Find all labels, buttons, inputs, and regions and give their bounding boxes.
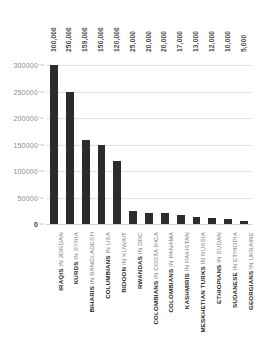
category-location-name: IN PANAMA	[167, 232, 174, 267]
x-axis-category-label: BIHARIS IN BANGLADESH	[88, 232, 95, 313]
y-axis-tick-mark	[39, 144, 44, 145]
category-group-name: IRAQIS	[57, 267, 64, 291]
bar	[82, 140, 90, 224]
bar	[177, 215, 185, 224]
bar-value-label: 13,000	[192, 31, 199, 52]
bar	[129, 211, 137, 224]
bar	[113, 161, 121, 225]
x-axis-category-label: RWANDAS IN DRC	[136, 232, 143, 289]
x-axis-category-label: SUDANESE IN ETHIOPIA	[231, 232, 238, 308]
category-group-name: BIDOON	[120, 265, 127, 293]
bar	[240, 221, 248, 224]
bar-value-label: 25,000	[129, 31, 136, 52]
bar-series	[46, 52, 252, 224]
category-group-name: GEORGIANS	[247, 269, 254, 310]
category-group-name: COLOMBIANS	[152, 279, 159, 325]
category-group-name: KASHMIRIS	[183, 271, 190, 309]
bar-value-label: 10,000	[224, 31, 231, 52]
bar	[145, 213, 153, 224]
axis-baseline	[46, 224, 252, 225]
y-axis-tick-label: 100000	[13, 168, 38, 175]
bar-value-label: 20,000	[160, 31, 167, 52]
y-axis-tick-label: 250000	[13, 88, 38, 95]
x-axis-category-label: KURDS IN SYRIA	[72, 232, 79, 284]
bar-value-label: 300,000	[50, 27, 57, 52]
x-axis-category-label: COLOMBIANS IN COSTA RICA	[152, 232, 159, 325]
bar	[66, 92, 74, 224]
bar	[224, 219, 232, 224]
bar	[193, 217, 201, 224]
category-group-name: RWANDAS	[136, 254, 143, 289]
bar-value-label: 12,000	[208, 31, 215, 52]
category-label-group: IRAQIS IN JORDANKURDS IN SYRIABIHARIS IN…	[46, 232, 252, 359]
y-axis-tick-label: 150000	[13, 141, 38, 148]
x-axis-category-label: MESKHETIAN TURKS IN RUSSIA	[199, 232, 206, 333]
y-axis-tick-label: 200000	[13, 115, 38, 122]
bar-value-label: 120,000	[113, 27, 120, 52]
x-axis-category-label: ETHIOPIANS IN SUDAN	[215, 232, 222, 304]
category-location-name: IN USA	[104, 232, 111, 254]
category-location-name: IN SUDAN	[215, 232, 222, 263]
x-axis-category-label: BIDOON IN KUWAIT	[120, 232, 127, 293]
category-group-name: COLOMBIANS	[167, 267, 174, 313]
y-axis-tick-mark	[39, 91, 44, 92]
category-group-name: ETHIOPIANS	[215, 263, 222, 304]
bar-value-label: 250,000	[65, 27, 72, 52]
category-location-name: IN RUSSIA	[199, 232, 206, 264]
category-group-name: BIHARIS	[88, 284, 95, 312]
y-axis-tick-mark	[39, 171, 44, 172]
category-location-name: IN SYRIA	[72, 232, 79, 260]
x-axis-category-label: IRAQIS IN JORDAN	[57, 232, 64, 291]
y-axis: 050000100000150000200000250000300000	[0, 52, 44, 224]
category-location-name: IN BANGLADESH	[88, 232, 95, 284]
category-location-name: IN DRC	[136, 232, 143, 254]
y-axis-tick-mark	[39, 197, 44, 198]
category-location-name: IN COSTA RICA	[152, 232, 159, 279]
y-axis-tick-label: 0	[34, 221, 38, 228]
bar-value-label: 150,000	[97, 27, 104, 52]
category-location-name: IN UKRAINE	[247, 232, 254, 269]
x-axis-category-label: GEORGIANS IN UKRAINE	[247, 232, 254, 310]
x-axis-category-label: COLUMBIANS IN USA	[104, 232, 111, 299]
x-axis-category-label: COLOMBIANS IN PANAMA	[167, 232, 174, 313]
category-group-name: COLUMBIANS	[104, 254, 111, 299]
y-axis-tick-mark	[39, 224, 44, 225]
y-axis-tick-mark	[39, 118, 44, 119]
category-group-name: MESKHETIAN TURKS	[199, 264, 206, 332]
category-group-name: KURDS	[72, 260, 79, 285]
bar	[98, 145, 106, 224]
bar	[50, 65, 58, 224]
value-label-group: 300,000250,000159,000150,000120,00025,00…	[46, 8, 252, 52]
category-location-name: IN PAKISTAN	[183, 232, 190, 271]
bar-value-label: 5,000	[240, 35, 247, 52]
category-location-name: IN ETHIOPIA	[231, 232, 238, 270]
bar-value-label: 20,000	[145, 31, 152, 52]
chart-title: STATELESS AND DISPLACED POPULATIONS	[38, 0, 238, 2]
bar-value-label: 159,000	[81, 27, 88, 52]
category-location-name: IN KUWAIT	[120, 232, 127, 265]
bar	[161, 213, 169, 224]
y-axis-tick-label: 300000	[13, 62, 38, 69]
x-axis-category-label: KASHMIRIS IN PAKISTAN	[183, 232, 190, 309]
bar-value-label: 17,000	[176, 31, 183, 52]
y-axis-tick-mark	[39, 65, 44, 66]
y-axis-tick-label: 50000	[18, 194, 38, 201]
category-group-name: SUDANESE	[231, 270, 238, 307]
category-location-name: IN JORDAN	[57, 232, 64, 267]
bar	[208, 218, 216, 224]
